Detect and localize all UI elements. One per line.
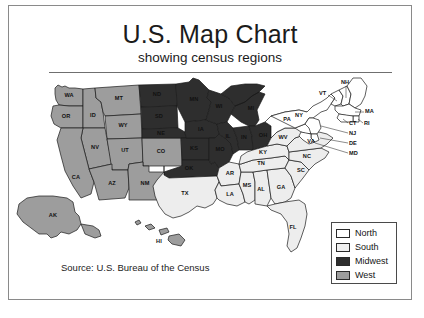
legend-label-west: West bbox=[355, 271, 375, 280]
label-NE: NE bbox=[157, 130, 165, 136]
label-RI: RI bbox=[364, 120, 370, 126]
label-NV: NV bbox=[91, 144, 99, 150]
label-SD: SD bbox=[155, 113, 163, 119]
label-IL: IL bbox=[225, 133, 231, 139]
label-WY: WY bbox=[118, 122, 127, 128]
label-WA: WA bbox=[64, 92, 73, 98]
label-KS: KS bbox=[190, 145, 198, 151]
label-OR: OR bbox=[62, 113, 71, 119]
label-WV: WV bbox=[278, 134, 287, 140]
label-LA: LA bbox=[226, 191, 234, 197]
label-AK: AK bbox=[49, 212, 57, 218]
label-UT: UT bbox=[121, 147, 129, 153]
label-IN: IN bbox=[241, 134, 247, 140]
legend-swatch-south bbox=[336, 243, 350, 252]
label-MD: MD bbox=[349, 150, 358, 156]
legend-item-west[interactable]: West bbox=[336, 269, 396, 282]
label-FL: FL bbox=[289, 224, 297, 230]
label-SC: SC bbox=[297, 167, 305, 173]
label-MA: MA bbox=[365, 108, 374, 114]
label-MI: MI bbox=[248, 105, 255, 111]
leader-NJ bbox=[321, 126, 348, 133]
label-NY: NY bbox=[295, 112, 303, 118]
page-subtitle: showing census regions bbox=[9, 50, 411, 65]
label-MN: MN bbox=[190, 96, 199, 102]
label-ID: ID bbox=[90, 112, 96, 118]
legend-swatch-west bbox=[336, 271, 350, 280]
legend-item-north[interactable]: North bbox=[336, 227, 396, 240]
label-MO: MO bbox=[215, 146, 225, 152]
label-DE: DE bbox=[349, 140, 357, 146]
legend-label-north: North bbox=[355, 229, 377, 238]
label-KY: KY bbox=[259, 149, 267, 155]
legend-swatch-north bbox=[336, 229, 350, 238]
label-GA: GA bbox=[277, 184, 286, 190]
label-TN: TN bbox=[257, 160, 265, 166]
label-PA: PA bbox=[283, 116, 291, 122]
legend-item-south[interactable]: South bbox=[336, 241, 396, 254]
chart-frame: U.S. Map Chart showing census regions bbox=[8, 5, 412, 300]
source-note: Source: U.S. Bureau of the Census bbox=[61, 262, 209, 273]
legend-swatch-midwest bbox=[336, 257, 350, 266]
label-MT: MT bbox=[115, 95, 124, 101]
label-NC: NC bbox=[303, 153, 311, 159]
state-AK[interactable] bbox=[17, 196, 101, 238]
label-CA: CA bbox=[72, 174, 80, 180]
legend-item-midwest[interactable]: Midwest bbox=[336, 255, 396, 268]
label-NJ: NJ bbox=[349, 130, 356, 136]
label-CO: CO bbox=[157, 148, 166, 154]
label-WI: WI bbox=[215, 103, 222, 109]
label-NM: NM bbox=[141, 180, 150, 186]
state-NJ[interactable] bbox=[305, 118, 321, 134]
label-AZ: AZ bbox=[108, 180, 116, 186]
label-HI: HI bbox=[156, 238, 162, 244]
label-NH: NH bbox=[341, 79, 349, 85]
label-ND: ND bbox=[153, 91, 161, 97]
label-OH: OH bbox=[259, 132, 268, 138]
label-OK: OK bbox=[185, 165, 194, 171]
legend: North South Midwest West bbox=[331, 222, 397, 284]
label-MS: MS bbox=[243, 182, 252, 188]
label-IA: IA bbox=[198, 126, 204, 132]
legend-label-south: South bbox=[355, 243, 379, 252]
label-CT: CT bbox=[349, 120, 357, 126]
page-title: U.S. Map Chart bbox=[9, 20, 411, 49]
label-AR: AR bbox=[226, 170, 234, 176]
label-AL: AL bbox=[257, 186, 265, 192]
state-FL[interactable] bbox=[267, 200, 307, 252]
title-divider bbox=[49, 72, 392, 73]
label-VA: VA bbox=[307, 138, 315, 144]
label-TX: TX bbox=[181, 190, 189, 196]
legend-label-midwest: Midwest bbox=[355, 257, 388, 266]
label-VT: VT bbox=[319, 90, 327, 96]
